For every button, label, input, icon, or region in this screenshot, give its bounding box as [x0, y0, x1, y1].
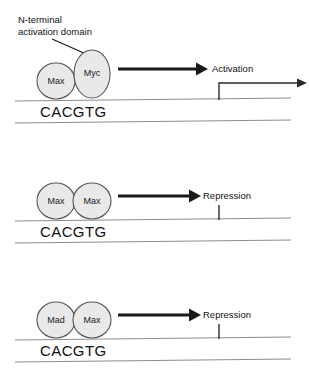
transcription-start-arrowhead-1	[297, 79, 307, 88]
dna-strand-lower-2	[15, 240, 291, 243]
dna-strand-lower-1	[15, 120, 291, 123]
ebox-motif-1: CACGTG	[40, 103, 107, 120]
transcription-start-arrow-1	[219, 83, 299, 100]
protein-max-2a-label: Max	[47, 196, 65, 206]
panel-repression-max-max: CACGTG Max Max Repression	[15, 183, 291, 243]
myc-max-mad-diagram: N-terminal activation domain CACGTG Max …	[0, 0, 309, 385]
ebox-motif-2: CACGTG	[40, 223, 107, 240]
protein-max-2b-label: Max	[83, 196, 101, 206]
outcome-label-activation: Activation	[212, 63, 253, 74]
protein-max-3-label: Max	[83, 315, 101, 325]
panel-activation: N-terminal activation domain CACGTG Max …	[15, 14, 307, 123]
outcome-label-repression-2: Repression	[203, 309, 251, 320]
protein-mad-3-label: Mad	[47, 315, 65, 325]
dna-strand-lower-3	[15, 359, 291, 362]
diagram-canvas: N-terminal activation domain CACGTG Max …	[0, 0, 309, 385]
signal-arrow-head-2	[189, 190, 201, 203]
outcome-label-repression-1: Repression	[203, 190, 251, 201]
annotation-line-2: activation domain	[18, 26, 92, 37]
panel-repression-mad-max: CACGTG Mad Max Repression	[15, 302, 291, 362]
signal-arrow-head-3	[189, 309, 201, 322]
protein-max-1-label: Max	[47, 76, 65, 86]
annotation-line-1: N-terminal	[18, 14, 62, 25]
ebox-motif-3: CACGTG	[40, 342, 107, 359]
signal-arrow-head-1	[196, 63, 208, 76]
protein-myc-1-label: Myc	[84, 68, 101, 78]
